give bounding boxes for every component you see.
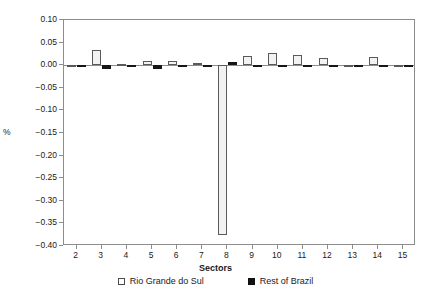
x-tick-label: 8 [224,251,229,260]
bar-rest-of-brazil [253,65,262,67]
legend-item-rest-of-brazil: Rest of Brazil [248,277,314,286]
bar-rest-of-brazil [127,65,136,67]
legend-label: Rest of Brazil [260,277,314,286]
y-tick-label: −0.10 [13,105,57,114]
x-tick-label: 14 [373,251,382,260]
x-tick-mark [201,245,202,249]
bar-rio-grande-do-sul [268,53,277,66]
bar-rio-grande-do-sul [168,61,177,66]
bar-rio-grande-do-sul [143,61,152,65]
bar-rest-of-brazil [77,65,86,67]
legend-label: Rio Grande do Sul [130,277,204,286]
x-tick-mark [377,245,378,249]
x-tick-label: 4 [123,251,128,260]
y-tick-label: 0.05 [13,38,57,47]
bar-rio-grande-do-sul [319,58,328,65]
bar-rio-grande-do-sul [193,63,202,65]
plot-area [63,19,415,245]
bar-rio-grande-do-sul [92,50,101,65]
bar-rest-of-brazil [102,65,111,69]
y-tick-label: −0.05 [13,83,57,92]
bar-rio-grande-do-sul [394,65,403,67]
y-tick-label: −0.15 [13,128,57,137]
x-tick-label: 3 [98,251,103,260]
x-tick-mark [176,245,177,249]
y-tick-label: −0.25 [13,173,57,182]
bar-rest-of-brazil [203,65,212,67]
y-tick-label: −0.30 [13,196,57,205]
bar-rio-grande-do-sul [218,65,227,235]
x-tick-label: 10 [272,251,281,260]
x-tick-mark [151,245,152,249]
x-tick-label: 12 [322,251,331,260]
x-tick-mark [277,245,278,249]
x-tick-mark [352,245,353,249]
bar-rest-of-brazil [329,65,338,67]
bar-rest-of-brazil [228,62,237,65]
y-tick-label: −0.35 [13,218,57,227]
x-tick-label: 13 [347,251,356,260]
x-tick-label: 15 [398,251,407,260]
x-tick-label: 11 [297,251,306,260]
bar-rest-of-brazil [278,65,287,67]
y-tick-label: −0.20 [13,151,57,160]
x-tick-mark [252,245,253,249]
x-axis-title: Sectors [0,263,431,273]
y-tick-label: 0.00 [13,60,57,69]
x-tick-mark [327,245,328,249]
x-tick-mark [101,245,102,249]
x-tick-label: 2 [73,251,78,260]
y-tick-mark [59,245,63,246]
bar-rest-of-brazil [354,65,363,67]
legend-item-rio-grande-do-sul: Rio Grande do Sul [118,277,204,286]
y-tick-label: −0.40 [13,241,57,250]
bar-chart: % 0.100.050.00−0.05−0.10−0.15−0.20−0.25−… [0,0,431,297]
x-tick-mark [126,245,127,249]
x-tick-label: 9 [249,251,254,260]
chart-legend: Rio Grande do Sul Rest of Brazil [0,277,431,286]
x-tick-mark [76,245,77,249]
bar-rio-grande-do-sul [67,65,76,67]
x-tick-mark [402,245,403,249]
x-tick-label: 7 [199,251,204,260]
bar-rio-grande-do-sul [369,57,378,66]
x-tick-label: 6 [174,251,179,260]
bar-rio-grande-do-sul [117,64,126,66]
plot-inner [64,20,414,244]
y-tick-label: 0.10 [13,15,57,24]
bar-rest-of-brazil [404,65,413,67]
bar-rest-of-brazil [379,65,388,67]
bar-rest-of-brazil [153,65,162,69]
bar-rio-grande-do-sul [293,55,302,65]
x-tick-mark [226,245,227,249]
x-tick-mark [302,245,303,249]
bar-rio-grande-do-sul [344,65,353,67]
open-square-icon [118,278,125,285]
filled-square-icon [248,278,255,285]
y-axis-label: % [3,128,11,137]
bar-rest-of-brazil [303,65,312,67]
bar-rest-of-brazil [178,65,187,67]
x-tick-label: 5 [149,251,154,260]
bar-rio-grande-do-sul [243,56,252,65]
